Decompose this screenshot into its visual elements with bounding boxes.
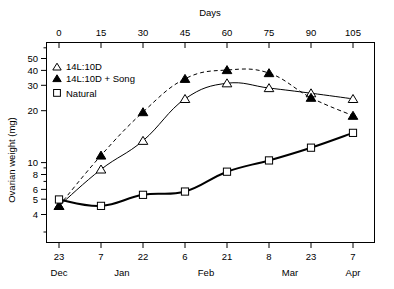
legend-label-14l10d-song: 14L:10D + Song: [66, 73, 135, 84]
bottom-axis-tick-labels: 23 7 22 6 21 8 23 7: [54, 251, 356, 262]
bottom-axis-ticks: [59, 243, 353, 249]
top-axis-tick-labels: 0 15 30 45 60 75 90 105: [56, 27, 361, 38]
legend-marker-open-triangle: [53, 63, 61, 70]
top-tick-label-0: 0: [56, 27, 61, 38]
data-point-open-square: [265, 157, 272, 164]
ovarian-weight-chart: Days 0 15 30 45 60 75 90 105: [0, 0, 394, 289]
figure-container: Days 0 15 30 45 60 75 90 105: [0, 0, 394, 289]
bottom-tick-label-7: 7: [350, 251, 355, 262]
top-axis-ticks: [59, 43, 353, 49]
legend-label-natural: Natural: [66, 88, 97, 99]
bottom-tick-label-1: 7: [98, 251, 103, 262]
month-label-apr: Apr: [346, 267, 361, 278]
month-label-jan: Jan: [114, 267, 129, 278]
data-point-open-square: [181, 188, 188, 195]
top-tick-label-30: 30: [138, 27, 149, 38]
y-tick-label-10: 10: [27, 157, 38, 168]
data-point-filled-triangle: [264, 69, 274, 77]
month-label-feb: Feb: [198, 267, 214, 278]
data-point-open-square: [349, 129, 356, 136]
y-axis-tick-labels: 50 40 30 20 10 8 6 5 4: [27, 53, 38, 220]
y-tick-label-4: 4: [33, 209, 38, 220]
top-tick-label-45: 45: [180, 27, 191, 38]
y-tick-label-5: 5: [33, 194, 38, 205]
data-point-open-square: [307, 144, 314, 151]
y-tick-label-50: 50: [27, 53, 38, 64]
data-point-open-square: [55, 196, 62, 203]
y-axis-title: Ovarian weight (mg): [6, 117, 17, 203]
bottom-axis-month-labels: Dec Jan Feb Mar Apr: [51, 267, 361, 278]
top-tick-label-75: 75: [264, 27, 275, 38]
month-label-mar: Mar: [282, 267, 298, 278]
data-point-filled-triangle: [138, 108, 148, 116]
bottom-tick-label-6: 23: [306, 251, 317, 262]
y-tick-label-8: 8: [33, 169, 38, 180]
data-point-filled-triangle: [348, 111, 358, 119]
month-label-dec: Dec: [51, 267, 68, 278]
data-point-open-triangle: [96, 165, 106, 173]
data-series-layer: [54, 66, 358, 210]
top-tick-label-90: 90: [306, 27, 317, 38]
bottom-tick-label-4: 21: [222, 251, 233, 262]
bottom-tick-label-2: 22: [138, 251, 149, 262]
series-line-1: [59, 69, 353, 206]
bottom-tick-label-0: 23: [54, 251, 65, 262]
data-point-open-triangle: [180, 94, 190, 102]
legend-marker-open-square: [54, 90, 61, 97]
top-axis-title: Days: [199, 7, 221, 18]
bottom-tick-label-3: 6: [182, 251, 187, 262]
bottom-tick-label-5: 8: [266, 251, 271, 262]
data-point-open-square: [139, 191, 146, 198]
y-axis-ticks: [41, 48, 47, 232]
top-tick-label-105: 105: [345, 27, 361, 38]
data-point-filled-triangle: [180, 74, 190, 82]
data-point-open-square: [97, 202, 104, 209]
legend-marker-filled-triangle: [53, 75, 61, 82]
y-tick-label-20: 20: [27, 105, 38, 116]
legend-label-14l10d: 14L:10D: [66, 61, 102, 72]
top-tick-label-15: 15: [96, 27, 107, 38]
data-point-open-square: [223, 168, 230, 175]
top-tick-label-60: 60: [222, 27, 233, 38]
y-tick-label-30: 30: [27, 80, 38, 91]
chart-legend: 14L:10D 14L:10D + Song Natural: [53, 61, 135, 99]
y-tick-label-40: 40: [27, 65, 38, 76]
